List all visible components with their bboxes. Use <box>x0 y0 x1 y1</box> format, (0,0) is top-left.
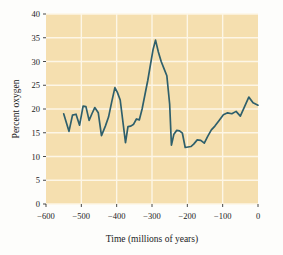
y-axis-tick-label: 30 <box>32 57 41 67</box>
y-axis-tick-label: 20 <box>32 104 41 114</box>
x-axis-tick-label: −600 <box>37 211 55 221</box>
y-axis-tick-label: 40 <box>32 9 41 19</box>
x-axis-tick-label: −500 <box>73 211 91 221</box>
x-axis-title: Time (millions of years) <box>106 234 198 245</box>
y-axis-tick-label: 5 <box>36 175 40 185</box>
figure-canvas: 0510152025303540 −600−500−400−300−200−10… <box>0 0 283 255</box>
x-axis-tick-label: −300 <box>143 211 161 221</box>
x-axis-tick-label: 0 <box>256 211 260 221</box>
y-axis-tick-label: 0 <box>36 199 40 209</box>
oxygen-over-time-line-chart: 0510152025303540 −600−500−400−300−200−10… <box>0 0 283 255</box>
y-axis-tick-label: 35 <box>32 33 41 43</box>
x-axis-tick-label: −200 <box>179 211 197 221</box>
x-axis-tick-label: −100 <box>214 211 232 221</box>
y-axis-tick-label: 15 <box>32 128 41 138</box>
y-axis-tick-label: 10 <box>32 152 41 162</box>
y-axis-title: Percent oxygen <box>11 79 21 138</box>
y-axis-tick-label: 25 <box>32 80 41 90</box>
x-axis-tick-label: −400 <box>108 211 126 221</box>
